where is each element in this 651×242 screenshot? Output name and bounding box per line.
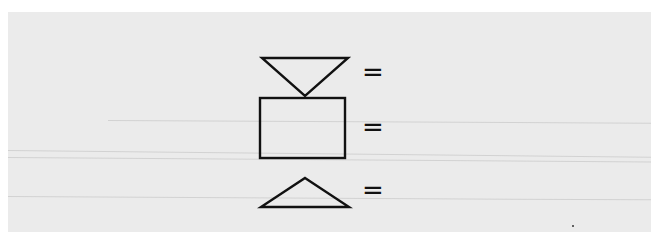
speck: [572, 225, 574, 227]
equals-sign-1: =: [362, 59, 384, 85]
inverted-triangle-shape: [262, 58, 348, 96]
triangle-shape: [261, 178, 349, 207]
equals-sign-3: =: [362, 177, 384, 203]
rectangle-shape: [260, 98, 345, 158]
shapes-canvas: [0, 0, 651, 242]
equals-sign-2: =: [362, 114, 384, 140]
